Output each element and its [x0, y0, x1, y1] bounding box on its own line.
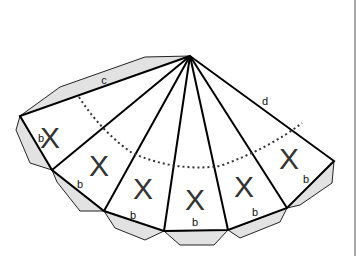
edge-label-d: d: [262, 95, 268, 107]
edge-label-b: b: [192, 216, 198, 228]
face-label: X: [133, 172, 153, 205]
edge-label-c: c: [101, 74, 107, 86]
edge-label-b: b: [252, 206, 258, 218]
cone-net-diagram: X X X X X X c d b b b b b b: [0, 0, 356, 256]
face-label: X: [279, 142, 299, 175]
face-label: X: [234, 170, 254, 203]
tab-b4: [164, 230, 228, 245]
edge-label-b: b: [130, 209, 136, 221]
edge-label-b: b: [77, 178, 83, 190]
edge-label-b: b: [303, 173, 309, 185]
edge-label-b: b: [38, 132, 44, 144]
face-label: X: [185, 183, 205, 216]
face-label: X: [89, 149, 109, 182]
